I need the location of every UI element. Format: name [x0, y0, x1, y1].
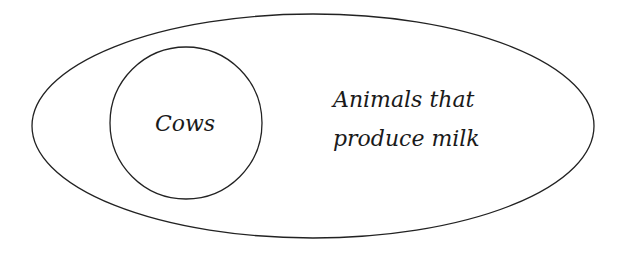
euler-diagram: Cows Animals that produce milk [0, 0, 627, 256]
outer-set-ellipse [32, 14, 594, 238]
inner-set-label: Cows [155, 111, 215, 136]
outer-set-label-line2: produce milk [333, 126, 480, 151]
outer-set-label-line1: Animals that [331, 87, 475, 112]
